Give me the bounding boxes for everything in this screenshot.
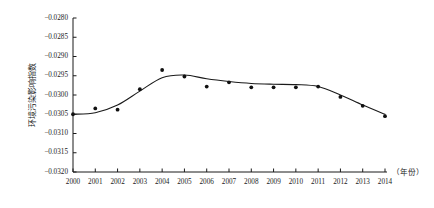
data-point-group bbox=[71, 68, 387, 118]
x-tick-label: 2004 bbox=[155, 178, 170, 186]
data-point-marker bbox=[160, 68, 164, 72]
data-point-marker bbox=[339, 95, 343, 99]
y-tick-label: −0.0305 bbox=[44, 110, 68, 118]
x-tick-label: 2002 bbox=[110, 178, 125, 186]
y-tick-marks bbox=[73, 18, 77, 172]
environmental-pollution-index-chart: 环境污染影响指数 −0.0280−0.0285−0.0290−0.0295−0.… bbox=[0, 0, 434, 208]
data-point-marker bbox=[249, 85, 253, 89]
y-tick-label-group: −0.0280−0.0285−0.0290−0.0295−0.0300−0.03… bbox=[44, 14, 68, 176]
x-tick-label: 2006 bbox=[200, 178, 215, 186]
x-tick-label: 2005 bbox=[177, 178, 192, 186]
chart-container: 环境污染影响指数 −0.0280−0.0285−0.0290−0.0295−0.… bbox=[0, 0, 434, 208]
x-tick-label-group: 2000200120022003200420052006200720082009… bbox=[66, 178, 393, 186]
x-tick-label: 2013 bbox=[356, 178, 371, 186]
data-point-marker bbox=[116, 108, 120, 112]
data-point-marker bbox=[272, 85, 276, 89]
data-point-marker bbox=[316, 85, 320, 89]
x-tick-label: 2012 bbox=[333, 178, 348, 186]
data-point-marker bbox=[183, 75, 187, 79]
x-tick-label: 2014 bbox=[378, 178, 393, 186]
data-point-marker bbox=[227, 80, 231, 84]
data-point-marker bbox=[361, 104, 365, 108]
data-point-marker bbox=[93, 107, 97, 111]
x-axis-title-label: （年份） bbox=[392, 167, 424, 177]
y-tick-label: −0.0300 bbox=[44, 91, 68, 99]
data-point-marker bbox=[294, 85, 298, 89]
y-tick-label: −0.0315 bbox=[44, 148, 68, 156]
x-tick-label: 2003 bbox=[133, 178, 148, 186]
y-tick-label: −0.0285 bbox=[44, 33, 68, 41]
y-tick-label: −0.0295 bbox=[44, 71, 68, 79]
data-point-marker bbox=[71, 112, 75, 116]
y-axis-title: 环境污染影响指数 bbox=[27, 63, 37, 127]
y-tick-label: −0.0290 bbox=[44, 52, 68, 60]
x-tick-marks bbox=[73, 169, 385, 173]
x-tick-label: 2009 bbox=[266, 178, 281, 186]
x-tick-label: 2001 bbox=[88, 178, 103, 186]
data-point-marker bbox=[383, 114, 387, 118]
x-tick-label: 2000 bbox=[66, 178, 81, 186]
data-point-marker bbox=[138, 87, 142, 91]
y-tick-label: −0.0310 bbox=[44, 129, 68, 137]
data-point-marker bbox=[205, 85, 209, 89]
x-tick-label: 2011 bbox=[311, 178, 326, 186]
x-tick-label: 2010 bbox=[289, 178, 304, 186]
y-tick-label: −0.0280 bbox=[44, 14, 68, 22]
x-tick-label: 2008 bbox=[244, 178, 259, 186]
y-axis-title-label: 环境污染影响指数 bbox=[27, 63, 37, 127]
y-tick-label: −0.0320 bbox=[44, 168, 68, 176]
x-tick-label: 2007 bbox=[222, 178, 237, 186]
